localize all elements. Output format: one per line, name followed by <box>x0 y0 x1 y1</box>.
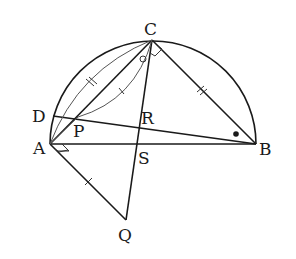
label-Q: Q <box>118 225 132 245</box>
geometry-diagram: C D P R A S B Q <box>0 0 296 259</box>
label-R: R <box>141 108 155 128</box>
angle-dot-mark-B <box>233 131 239 137</box>
label-S: S <box>138 148 150 168</box>
label-C: C <box>144 19 157 39</box>
right-angle-mark-C <box>150 46 162 56</box>
label-B: B <box>259 139 272 159</box>
label-A: A <box>32 138 46 158</box>
label-P: P <box>73 121 84 141</box>
segment-CQ <box>126 40 152 220</box>
label-D: D <box>32 106 46 126</box>
